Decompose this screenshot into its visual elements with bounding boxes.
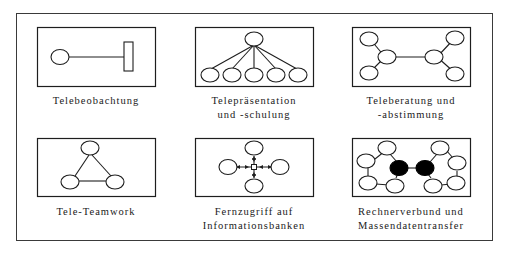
team-member-node — [61, 175, 79, 189]
caption-line-2: Massendatentransfer — [358, 220, 464, 231]
computer-node — [424, 179, 442, 193]
database-node — [219, 160, 237, 175]
hub-node — [378, 50, 396, 64]
participant-node — [267, 68, 285, 82]
database-node — [271, 160, 289, 175]
peer-node — [446, 67, 464, 81]
panel-tele-teamwork: Tele-Teamwork — [38, 139, 156, 218]
presenter-node — [245, 32, 263, 46]
central-hub — [252, 165, 257, 170]
panel-telepraesentation: Telepräsentation und -schulung — [196, 28, 314, 121]
panel-rechnerverbund: Rechnerverbund und Massendatentransfer — [353, 139, 471, 232]
caption-line-1: Fernzugriff auf — [215, 206, 294, 217]
database-node — [245, 179, 263, 193]
server-node-filled — [390, 161, 408, 176]
participant-node — [289, 68, 307, 82]
computer-node — [357, 154, 375, 168]
peer-node — [360, 32, 378, 46]
participant-node — [201, 68, 219, 82]
team-member-node — [81, 141, 99, 155]
hub-node — [425, 50, 443, 64]
panel-fernzugriff: Fernzugriff auf Informationsbanken — [196, 139, 314, 232]
camera-device — [124, 42, 133, 71]
caption-line-1: Rechnerverbund und — [358, 206, 464, 217]
server-node-filled — [416, 161, 434, 176]
station-node — [51, 50, 69, 65]
caption-line-1: Telebeobachtung — [53, 95, 140, 106]
participant-node — [245, 68, 263, 82]
peer-node — [360, 66, 378, 80]
figure: Telebeobachtung Telepräsentation und -sc… — [0, 0, 508, 253]
computer-node — [378, 141, 396, 155]
computer-node — [386, 179, 404, 193]
database-node — [245, 141, 263, 155]
panel-teleberatung: Teleberatung und -abstimmung — [353, 28, 471, 121]
caption-line-2: und -schulung — [218, 109, 291, 120]
peer-node — [446, 31, 464, 45]
caption-line-1: Teleberatung und — [366, 95, 455, 106]
computer-node — [359, 176, 377, 190]
caption-line-2: Informationsbanken — [203, 220, 306, 231]
computer-node — [447, 176, 465, 190]
caption-line-1: Telepräsentation — [211, 95, 296, 106]
computer-node — [431, 141, 449, 155]
computer-node — [448, 156, 466, 170]
diagram-canvas: Telebeobachtung Telepräsentation und -sc… — [0, 0, 508, 253]
panel-telebeobachtung: Telebeobachtung — [38, 28, 156, 107]
caption-line-1: Tele-Teamwork — [56, 206, 135, 217]
participant-node — [223, 68, 241, 82]
caption-line-2: -abstimmung — [378, 109, 444, 120]
team-member-node — [106, 175, 124, 189]
